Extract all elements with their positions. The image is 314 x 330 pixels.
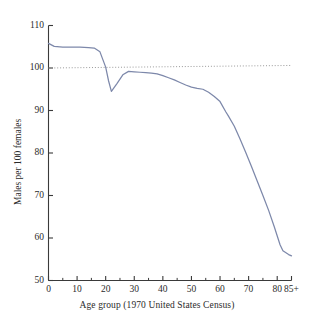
y-tick-label: 100 (18, 63, 44, 73)
y-tick-label: 110 (18, 21, 44, 31)
x-tick-label: 20 (92, 285, 120, 295)
y-axis-title: Males per 100 females (13, 119, 23, 205)
x-tick-label: 50 (177, 285, 205, 295)
x-axis-ticks (49, 276, 292, 281)
plot-canvas (0, 0, 314, 330)
x-tick-label: 70 (235, 285, 263, 295)
x-tick-label: 85+ (278, 285, 306, 295)
y-axis-ticks (49, 26, 54, 281)
x-tick-label: 10 (63, 285, 91, 295)
x-tick-label: 30 (120, 285, 148, 295)
x-tick-label: 60 (206, 285, 234, 295)
y-tick-label: 90 (18, 106, 44, 116)
reference-line (49, 65, 292, 68)
x-tick-label: 40 (149, 285, 177, 295)
x-axis-title: Age group (1970 United States Census) (0, 300, 314, 310)
data-series-line (49, 43, 292, 256)
axis-lines (49, 26, 292, 281)
x-tick-label: 0 (35, 285, 63, 295)
chart-figure: 1101009080706050 0102030405060708085+ Ma… (0, 0, 314, 330)
y-tick-label: 60 (18, 233, 44, 243)
